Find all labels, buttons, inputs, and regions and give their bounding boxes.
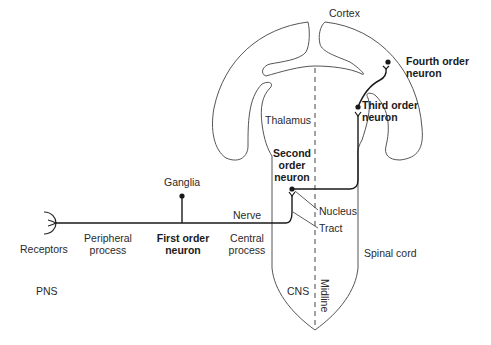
label-ganglia: Ganglia — [164, 176, 200, 188]
label-second-line1: Second — [272, 147, 312, 159]
ganglion-cell-body — [179, 193, 184, 198]
label-spinal-cord: Spinal cord — [364, 247, 417, 259]
neural-pathway-diagram — [0, 0, 491, 345]
label-receptors: Receptors — [20, 243, 68, 255]
label-second-line3: neuron — [272, 171, 312, 183]
label-third-line2: neuron — [362, 111, 418, 123]
label-fourth-line1: Fourth order — [406, 55, 469, 67]
label-pns: PNS — [36, 285, 58, 297]
label-cns: CNS — [287, 285, 309, 297]
label-tract: Tract — [319, 222, 343, 234]
label-second-order-neuron: Second order neuron — [272, 147, 312, 183]
label-second-line2: order — [272, 159, 312, 171]
label-nerve: Nerve — [233, 209, 261, 221]
label-third-order-neuron: Third order neuron — [362, 99, 418, 123]
receptor-ending-icon — [44, 212, 56, 234]
label-peripheral-process: Peripheral process — [80, 232, 136, 256]
label-thalamus: Thalamus — [265, 114, 311, 126]
label-cortex: Cortex — [329, 7, 360, 19]
label-first-line1: First order — [150, 232, 216, 244]
label-fourth-line2: neuron — [406, 67, 469, 79]
label-central-line1: Central — [224, 232, 270, 244]
nucleus-leader-line — [295, 191, 318, 210]
label-central-line2: process — [224, 244, 270, 256]
synapse-fourth-icon — [383, 66, 389, 69]
label-fourth-order-neuron: Fourth order neuron — [406, 55, 469, 79]
synapse-second-icon — [289, 192, 295, 196]
label-peripheral-line1: Peripheral — [80, 232, 136, 244]
label-nucleus: Nucleus — [319, 205, 357, 217]
label-central-process: Central process — [224, 232, 270, 256]
label-third-line1: Third order — [362, 99, 418, 111]
label-peripheral-line2: process — [80, 244, 136, 256]
brain-spinal-cord-outline — [213, 22, 423, 330]
label-midline: Midline — [319, 279, 331, 312]
label-first-order-neuron: First order neuron — [150, 232, 216, 256]
label-first-line2: neuron — [150, 244, 216, 256]
fourth-order-neuron-body — [385, 59, 390, 64]
tract-leader-line — [293, 212, 318, 228]
synapse-third-icon — [355, 112, 361, 116]
